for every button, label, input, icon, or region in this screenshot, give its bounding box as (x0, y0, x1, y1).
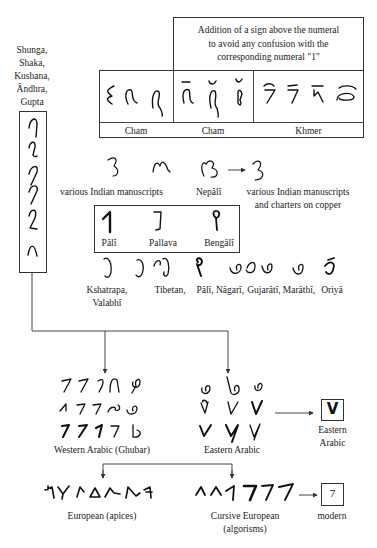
western-arabic-glyphs (60, 379, 140, 437)
khmer-glyphs (264, 84, 356, 103)
eastern-arabic-glyphs (200, 377, 262, 442)
diagram-graphics (0, 0, 377, 548)
connector-lines (32, 170, 317, 495)
cursive-european-glyphs (196, 484, 293, 500)
various-indian-glyphs (108, 158, 263, 180)
script-row-glyphs (104, 258, 334, 277)
boxed-script-glyphs (103, 211, 219, 232)
european-apices-glyphs (45, 486, 152, 499)
hand-drawn-glyphs (28, 79, 356, 500)
cham-glyphs-1 (108, 86, 163, 116)
cham-glyphs-2 (182, 79, 242, 117)
left-column-glyphs (28, 119, 37, 256)
